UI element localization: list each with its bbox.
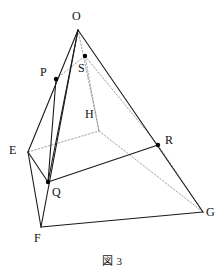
figure-container: O S P H E R Q G F 図 3 [0, 0, 224, 274]
vertex-label-S: S [78, 62, 85, 74]
edge-E-H [28, 131, 99, 152]
vertex-dot-P [54, 77, 58, 81]
vertex-label-H: H [85, 108, 94, 120]
vertex-label-F: F [34, 232, 41, 244]
vertex-label-R: R [165, 134, 173, 146]
edge-F-G [41, 212, 203, 227]
vertex-label-E: E [9, 144, 16, 156]
edge-H-G [99, 131, 203, 212]
vertex-dot-S [83, 54, 87, 58]
edge-E-F [28, 152, 41, 227]
edge-O-Q [48, 30, 78, 182]
vertex-label-P: P [40, 66, 47, 78]
edge-O-E [28, 30, 78, 152]
vertex-dot-Q [46, 180, 50, 184]
figure-caption: 図 3 [0, 252, 224, 268]
vertex-label-O: O [72, 10, 81, 22]
vertex-label-G: G [206, 206, 215, 218]
vertex-dot-R [156, 143, 160, 147]
edge-Q-R [48, 145, 158, 182]
vertex-label-Q: Q [52, 186, 61, 198]
